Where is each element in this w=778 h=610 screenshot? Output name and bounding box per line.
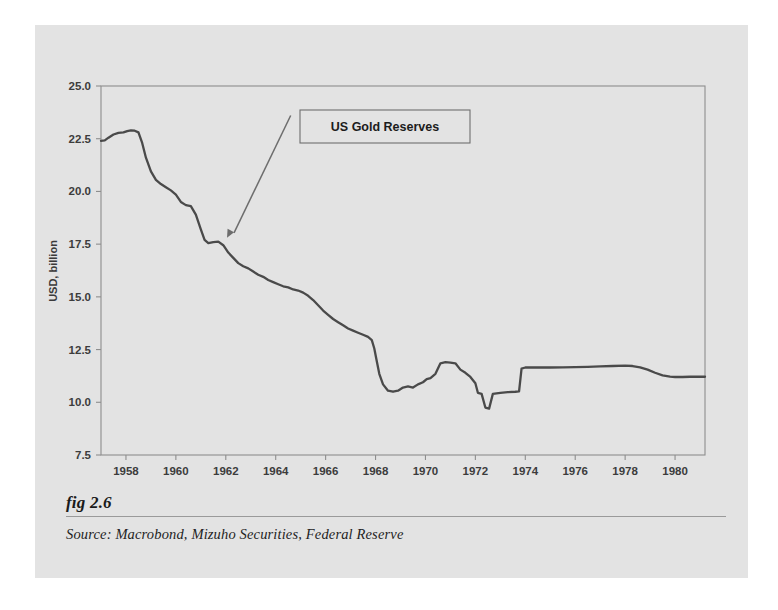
x-tick-label: 1972 [463, 465, 489, 477]
y-tick-label: 7.5 [75, 449, 92, 461]
x-tick-label: 1960 [163, 465, 189, 477]
data-series-line [101, 130, 705, 408]
y-tick-label: 17.5 [69, 238, 92, 250]
x-tick-label: 1976 [562, 465, 588, 477]
y-tick-label: 10.0 [69, 396, 91, 408]
x-tick-label: 1962 [213, 465, 239, 477]
annotation-arrow [234, 116, 291, 233]
y-tick-label: 20.0 [69, 185, 91, 197]
x-tick-label: 1958 [113, 465, 139, 477]
y-tick-label: 25.0 [69, 80, 91, 92]
x-tick-label: 1978 [612, 465, 638, 477]
x-tick-label: 1970 [413, 465, 439, 477]
x-tick-label: 1966 [313, 465, 339, 477]
caption-block: fig 2.6 Source: Macrobond, Mizuho Securi… [66, 493, 726, 543]
y-tick-label: 12.5 [69, 344, 92, 356]
x-tick-label: 1968 [363, 465, 389, 477]
annotation-label: US Gold Reserves [331, 120, 439, 134]
gold-reserves-line-chart: 25.022.520.017.515.012.510.07.5 19581960… [35, 25, 748, 480]
y-axis-title: USD, billion [47, 240, 59, 302]
x-tick-label: 1974 [513, 465, 539, 477]
caption-divider [66, 516, 726, 517]
x-tick-label: 1964 [263, 465, 289, 477]
plot-frame [101, 86, 705, 455]
x-tick-label: 1980 [662, 465, 688, 477]
y-axis-ticks: 25.022.520.017.515.012.510.07.5 [69, 80, 101, 461]
x-axis-ticks: 1958196019621964196619681970197219741976… [113, 455, 688, 477]
figure-number: fig 2.6 [66, 493, 726, 513]
figure-panel: 25.022.520.017.515.012.510.07.5 19581960… [35, 25, 748, 578]
chart-plot-area: 25.022.520.017.515.012.510.07.5 19581960… [35, 25, 748, 480]
annotation-arrow-head [227, 229, 234, 238]
y-tick-label: 15.0 [69, 291, 91, 303]
y-tick-label: 22.5 [69, 133, 92, 145]
source-credit: Source: Macrobond, Mizuho Securities, Fe… [66, 526, 726, 543]
